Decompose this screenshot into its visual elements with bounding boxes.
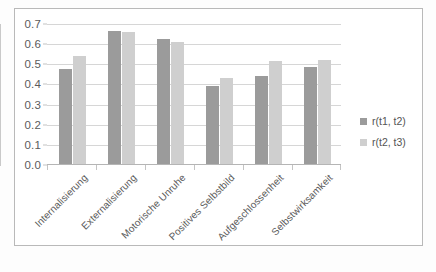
- x-tick-mark: [292, 165, 293, 170]
- legend-label: r(t2, t3): [372, 136, 406, 148]
- bar-group: [145, 24, 194, 165]
- x-tick-mark: [96, 165, 97, 170]
- bar: [304, 67, 317, 165]
- legend-swatch: [360, 118, 367, 125]
- y-tick-label: 0.2: [24, 118, 41, 130]
- bar: [269, 61, 282, 165]
- y-tick-label: 0.0: [24, 159, 41, 171]
- y-tick-label: 0.4: [24, 78, 41, 90]
- x-axis-labels: InternalisierungExternalisierungMotorisc…: [47, 172, 347, 246]
- bar-group: [243, 24, 292, 165]
- bar: [157, 39, 170, 165]
- bar: [171, 42, 184, 165]
- chart-figure: 0.00.10.20.30.40.50.60.7 Internalisierun…: [0, 0, 436, 272]
- plot-area: 0.00.10.20.30.40.50.60.7: [47, 24, 341, 165]
- x-tick-mark: [47, 165, 48, 170]
- y-tick-label: 0.5: [24, 58, 41, 70]
- x-tick-mark: [340, 165, 341, 170]
- legend-item: r(t2, t3): [360, 136, 430, 148]
- y-tick-label: 0.3: [24, 98, 41, 110]
- x-axis-baseline: [47, 164, 341, 165]
- bar: [318, 60, 331, 165]
- bar: [108, 31, 121, 165]
- bar: [255, 76, 268, 165]
- bar: [206, 86, 219, 165]
- legend-label: r(t1, t2): [372, 115, 406, 127]
- y-axis-line: [0, 24, 1, 166]
- y-tick-label: 0.7: [24, 18, 41, 30]
- bar: [59, 69, 72, 165]
- x-tick-mark: [243, 165, 244, 170]
- y-tick-label: 0.1: [24, 139, 41, 151]
- y-tick-label: 0.6: [24, 38, 41, 50]
- chart-legend: r(t1, t2)r(t2, t3): [360, 115, 430, 157]
- bar: [73, 56, 86, 165]
- bar-group: [96, 24, 145, 165]
- x-tick-mark: [145, 165, 146, 170]
- bar-group: [292, 24, 341, 165]
- x-tick-mark: [194, 165, 195, 170]
- bar: [122, 32, 135, 165]
- bar-group: [47, 24, 96, 165]
- bar: [220, 78, 233, 165]
- legend-swatch: [360, 139, 367, 146]
- bar-group: [194, 24, 243, 165]
- legend-item: r(t1, t2): [360, 115, 430, 127]
